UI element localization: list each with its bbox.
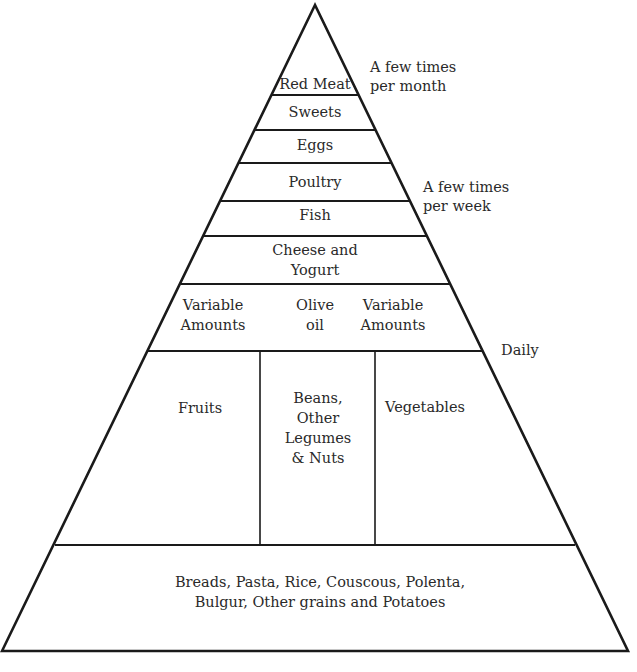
tier-red-meat: Red Meat (265, 74, 365, 94)
tier-cheese-yogurt: Cheese and Yogurt (240, 240, 390, 280)
cheese-line2: Yogurt (240, 260, 390, 280)
tier-fish: Fish (265, 205, 365, 225)
freq-weekly-line1: A few times (423, 178, 509, 197)
grains-line1: Breads, Pasta, Rice, Couscous, Polenta, (120, 572, 520, 592)
cheese-line1: Cheese and (240, 240, 390, 260)
freq-daily: Daily (501, 341, 539, 360)
beans-line1: Beans, (262, 388, 374, 408)
freq-weekly: A few times per week (423, 178, 509, 216)
tier-vegetables: Vegetables (370, 397, 480, 417)
tier-poultry: Poultry (265, 172, 365, 192)
oil-right-line2: Amounts (348, 315, 438, 335)
freq-monthly: A few times per month (370, 58, 456, 96)
tier-grains: Breads, Pasta, Rice, Couscous, Polenta, … (120, 572, 520, 612)
tier-olive-oil: Olive oil (275, 295, 355, 335)
tier-beans-legumes-nuts: Beans, Other Legumes & Nuts (262, 388, 374, 468)
olive-oil-line1: Olive (275, 295, 355, 315)
tier-oil-left: Variable Amounts (168, 295, 258, 335)
olive-oil-line2: oil (275, 315, 355, 335)
freq-monthly-line1: A few times (370, 58, 456, 77)
freq-monthly-line2: per month (370, 77, 456, 96)
beans-line2: Other (262, 408, 374, 428)
tier-oil-right: Variable Amounts (348, 295, 438, 335)
oil-left-line2: Amounts (168, 315, 258, 335)
beans-line3: Legumes (262, 428, 374, 448)
beans-line4: & Nuts (262, 448, 374, 468)
grains-line2: Bulgur, Other grains and Potatoes (120, 592, 520, 612)
freq-weekly-line2: per week (423, 197, 509, 216)
tier-eggs: Eggs (265, 135, 365, 155)
oil-right-line1: Variable (348, 295, 438, 315)
tier-sweets: Sweets (265, 102, 365, 122)
tier-fruits: Fruits (160, 398, 240, 418)
oil-left-line1: Variable (168, 295, 258, 315)
